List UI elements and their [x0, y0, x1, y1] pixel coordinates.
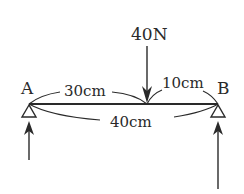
dimension-label-40cm: 40cm — [110, 113, 152, 131]
beam-diagram: 40N A B 30cm 10cm 40cm — [0, 0, 244, 194]
reaction-arrow-b — [213, 121, 223, 189]
point-label-a: A — [20, 78, 34, 98]
load-label: 40N — [131, 24, 168, 44]
dimension-arc-10cm — [147, 90, 218, 104]
dimension-label-30cm: 30cm — [64, 82, 106, 100]
dimension-label-10cm: 10cm — [162, 74, 204, 92]
point-label-b: B — [217, 78, 230, 98]
load-arrow — [142, 46, 152, 103]
reaction-arrow-a — [24, 121, 34, 160]
